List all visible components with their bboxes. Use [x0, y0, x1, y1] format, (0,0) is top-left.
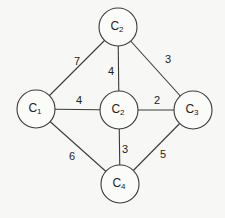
edge-weight-label: 4: [76, 94, 82, 106]
graph-diagram: 74342635 C2C1C2C3C4: [0, 0, 225, 218]
edge-weight-label: 4: [108, 65, 114, 77]
graph-node: C4: [101, 165, 139, 203]
graph-node: C3: [174, 91, 212, 129]
graph-node: C2: [99, 8, 137, 46]
graph-node: C2: [100, 91, 138, 129]
edge-weight-label: 6: [69, 150, 75, 162]
edge-weight-label: 3: [122, 143, 128, 155]
nodes-group: C2C1C2C3C4: [17, 8, 212, 203]
graph-node: C1: [17, 90, 55, 128]
edge-weight-label: 2: [154, 94, 160, 106]
edge-weight-label: 7: [74, 55, 80, 67]
edge-weight-label: 3: [165, 53, 171, 65]
edge-weight-label: 5: [160, 148, 166, 160]
